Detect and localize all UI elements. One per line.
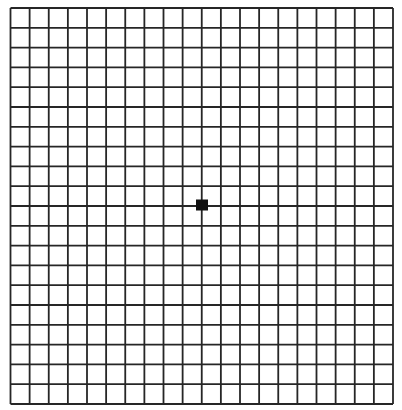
grid-canvas [0, 0, 402, 410]
center-fixation-dot [196, 200, 208, 211]
